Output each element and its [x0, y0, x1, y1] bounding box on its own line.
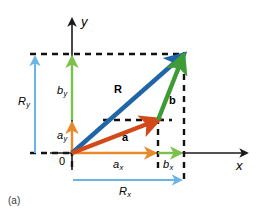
component-label-ay-subscript: y	[64, 134, 68, 143]
x-axis-label: x	[236, 159, 243, 172]
vector-a	[72, 121, 155, 153]
origin-label: 0	[59, 156, 65, 167]
component-label-ax-base: a	[113, 158, 119, 170]
component-label-by: by	[57, 85, 67, 97]
component-label-Ry-base: R	[18, 95, 26, 107]
component-label-bx-subscript: x	[170, 163, 174, 172]
component-label-Ry-subscript: y	[26, 100, 30, 109]
component-label-Rx: Rx	[119, 186, 131, 198]
vector-label-a: a	[122, 132, 128, 143]
vector-label-b: b	[169, 95, 176, 106]
component-label-ax: ax	[113, 159, 123, 171]
component-label-by-subscript: y	[64, 89, 68, 98]
y-axis-label: y	[81, 15, 88, 28]
vector-label-R: R	[114, 84, 122, 95]
component-label-Rx-subscript: x	[127, 190, 131, 199]
vector-diagram-canvas	[0, 0, 265, 212]
component-label-ax-subscript: x	[120, 163, 124, 172]
figure-caption: (a)	[8, 196, 20, 206]
component-label-bx: bx	[163, 159, 173, 171]
component-label-by-base: b	[57, 84, 63, 96]
component-label-Rx-base: R	[119, 185, 127, 197]
component-label-bx-base: b	[163, 158, 169, 170]
component-label-ay: ay	[57, 130, 67, 142]
vector-addition-figure: y x 0 R a b Ry by ay ax bx Rx (a)	[0, 0, 265, 212]
component-label-ay-base: a	[57, 129, 63, 141]
component-label-Ry: Ry	[18, 96, 30, 108]
